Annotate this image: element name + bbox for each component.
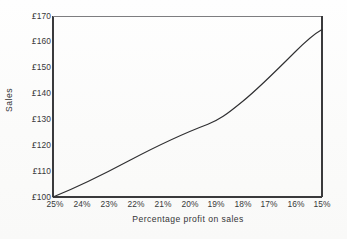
sales-curve <box>53 30 322 198</box>
y-tick-160: £160 <box>21 37 51 46</box>
line-chart: £170 £160 £150 £140 £130 £120 £110 £100 <box>0 0 347 239</box>
y-tick-110: £110 <box>21 167 51 176</box>
y-tick-120: £120 <box>21 141 51 150</box>
y-tick-value: 170 <box>37 11 51 21</box>
y-tick-value: 110 <box>37 166 51 176</box>
y-axis-title: Sales <box>4 77 14 123</box>
y-tick-value: 130 <box>37 114 51 124</box>
axis-frame <box>53 16 322 197</box>
y-tick-130: £130 <box>21 115 51 124</box>
y-tick-value: 160 <box>37 36 51 46</box>
chart-screenshot: £170 £160 £150 £140 £130 £120 £110 £100 <box>0 0 347 239</box>
x-axis-title: Percentage profit on sales <box>53 214 323 224</box>
x-tick-15: 15% <box>305 199 339 209</box>
y-tick-170: £170 <box>21 12 51 21</box>
y-tick-value: 120 <box>37 140 51 150</box>
y-tick-value: 150 <box>37 62 51 72</box>
y-tick-value: 140 <box>37 88 51 98</box>
y-tick-140: £140 <box>21 89 51 98</box>
y-tick-150: £150 <box>21 63 51 72</box>
